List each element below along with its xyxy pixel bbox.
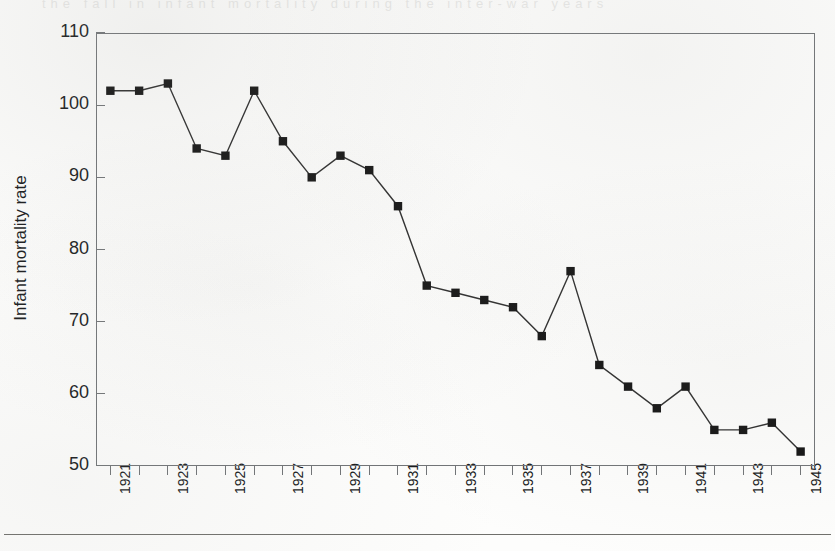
data-point-marker <box>221 151 229 159</box>
data-point-marker <box>308 173 316 181</box>
data-point-marker <box>509 303 517 311</box>
data-point-marker <box>336 151 344 159</box>
page-bottom-rule <box>4 534 831 535</box>
data-point-marker <box>135 87 143 95</box>
data-point-marker <box>595 361 603 369</box>
data-point-marker <box>451 289 459 297</box>
data-point-marker <box>394 202 402 210</box>
chart-figure: Infant mortality rate 5060708090100110 1… <box>0 0 835 551</box>
data-series-layer <box>0 0 835 551</box>
data-point-marker <box>164 79 172 87</box>
data-point-marker <box>279 137 287 145</box>
data-point-marker <box>796 447 804 455</box>
data-point-marker <box>538 332 546 340</box>
series-markers-group <box>106 79 805 455</box>
series-line-infant-mortality-rate <box>110 84 800 452</box>
data-point-marker <box>624 382 632 390</box>
data-point-marker <box>250 87 258 95</box>
data-point-marker <box>739 426 747 434</box>
data-point-marker <box>681 382 689 390</box>
data-point-marker <box>480 296 488 304</box>
data-point-marker <box>365 166 373 174</box>
data-point-marker <box>106 87 114 95</box>
data-point-marker <box>653 404 661 412</box>
data-point-marker <box>192 144 200 152</box>
data-point-marker <box>423 281 431 289</box>
data-point-marker <box>768 419 776 427</box>
data-point-marker <box>566 267 574 275</box>
data-point-marker <box>710 426 718 434</box>
